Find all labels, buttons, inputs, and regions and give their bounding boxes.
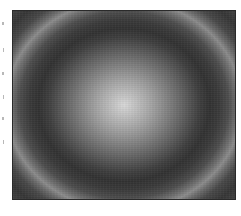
axis-tick xyxy=(3,48,4,52)
axis-tick xyxy=(3,140,4,144)
axis-tick xyxy=(2,22,4,25)
image-grain xyxy=(13,11,235,199)
axis-tick xyxy=(3,95,4,99)
axis-tick xyxy=(2,117,4,120)
ring-pattern-image xyxy=(12,10,236,200)
left-axis-ticks xyxy=(0,0,11,216)
axis-tick xyxy=(2,72,4,75)
